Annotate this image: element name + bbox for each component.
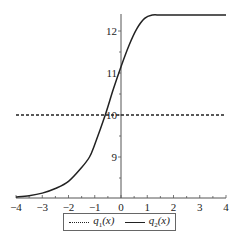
legend-label-q1: q1(x) — [93, 214, 114, 229]
x-tick-label: 2 — [171, 201, 177, 213]
y-tick-label: 12 — [106, 25, 117, 37]
x-tick-label: −4 — [10, 201, 22, 213]
x-tick-label: −2 — [63, 201, 75, 213]
x-tick-label: 1 — [145, 201, 151, 213]
y-tick-label: 11 — [106, 67, 117, 79]
x-tick-label: −1 — [89, 201, 101, 213]
x-tick-label: 4 — [223, 201, 229, 213]
axes: −4−3−2−1012349101112 — [10, 14, 229, 213]
x-tick-label: −3 — [36, 201, 48, 213]
x-tick-label: 0 — [118, 201, 124, 213]
legend-item-q1: q1(x) — [69, 214, 114, 229]
legend: q1(x) q2(x) — [63, 213, 176, 231]
dotted-line-swatch-icon — [69, 222, 89, 223]
solid-line-swatch-icon — [125, 222, 145, 223]
y-tick-label: 9 — [112, 151, 118, 163]
x-tick-label: 3 — [197, 201, 203, 213]
chart-plot: −4−3−2−1012349101112 — [0, 0, 242, 246]
legend-item-q2: q2(x) — [125, 214, 170, 229]
legend-label-q2: q2(x) — [149, 214, 170, 229]
